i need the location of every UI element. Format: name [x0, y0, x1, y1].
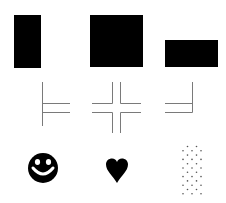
heart-icon — [106, 159, 128, 184]
t-junction-right-icon — [43, 82, 71, 126]
cross-junction-icon — [92, 82, 141, 133]
t-junction-left-icon — [165, 82, 193, 113]
dot-pattern-icon — [182, 146, 202, 195]
shapes-canvas — [0, 0, 226, 203]
smiley-face-icon — [28, 153, 58, 183]
